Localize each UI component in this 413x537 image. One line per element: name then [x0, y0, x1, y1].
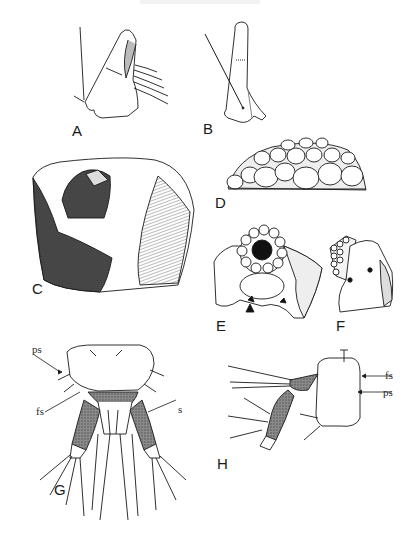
- panel-label-a: A: [72, 123, 82, 138]
- annotation-g-s: s: [178, 404, 182, 415]
- panel-a-drawing: [74, 27, 168, 118]
- panel-label-f: F: [336, 318, 345, 333]
- panel-label-g: G: [54, 482, 66, 497]
- panel-label-h: H: [217, 456, 228, 471]
- figure-plate: [0, 0, 413, 537]
- panel-d-drawing: [227, 138, 366, 190]
- panel-f-drawing: [330, 236, 393, 312]
- panel-label-e: E: [216, 318, 226, 333]
- panel-label-b: B: [203, 121, 213, 136]
- panel-c-drawing: [33, 158, 194, 292]
- annotation-h-ps: ps: [383, 387, 393, 398]
- annotation-h-fs: fs: [385, 370, 393, 381]
- panel-label-c: C: [32, 281, 43, 296]
- panel-h-drawing: [228, 350, 392, 450]
- panel-e-drawing: [214, 225, 322, 318]
- panel-label-d: D: [215, 195, 226, 210]
- annotation-g-ps: ps: [32, 344, 42, 355]
- annotation-g-fs: fs: [36, 406, 44, 417]
- panel-b-drawing: [205, 22, 266, 122]
